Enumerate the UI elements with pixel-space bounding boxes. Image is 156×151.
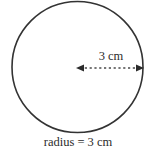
circle-outline [12,2,143,133]
geometry-figure: 3 cm radius = 3 cm [0,0,156,151]
circle-diagram-svg [0,0,156,151]
arrowhead-left-icon [76,65,84,72]
figure-caption: radius = 3 cm [0,135,156,149]
radius-dimension-label: 3 cm [88,49,134,63]
